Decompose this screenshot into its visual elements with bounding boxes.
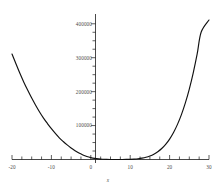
y-tick-label: 200000 — [76, 89, 92, 95]
x-tick-label: -10 — [48, 164, 56, 170]
y-tick-label: 400000 — [76, 21, 92, 27]
y-tick-label: 100000 — [76, 122, 92, 128]
x-tick-label: 30 — [206, 164, 212, 170]
x-tick-label: 20 — [167, 164, 173, 170]
x-tick-label: 0 — [89, 164, 92, 170]
y-tick-label: 300000 — [76, 55, 92, 61]
plot-canvas: -20-100102030 100000200000300000400000 x — [0, 0, 217, 189]
x-tick-label: -20 — [8, 164, 16, 170]
plot-background — [0, 0, 217, 189]
x-tick-label: 10 — [128, 164, 134, 170]
plot-figure: -20-100102030 100000200000300000400000 x — [0, 0, 217, 189]
